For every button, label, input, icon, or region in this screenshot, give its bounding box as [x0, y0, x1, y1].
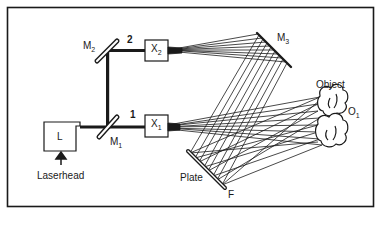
mirror-m2-label: M2: [83, 41, 95, 51]
beam-2-label: 2: [127, 35, 133, 45]
beam-vertical-line: [106, 50, 109, 127]
beam-1-label: 1: [130, 110, 136, 120]
object-o1-shape: [316, 84, 348, 146]
beam-1-line: [80, 126, 145, 129]
mirror-m3-label: M3: [277, 33, 289, 43]
laserhead-arrow-icon: [56, 152, 66, 165]
expander-x2-label: X2: [151, 44, 162, 54]
plate-label: Plate: [180, 173, 203, 183]
laserhead-caption: Laserhead: [37, 171, 84, 181]
mirror-m1-label: M1: [110, 137, 122, 147]
beam-2-line: [107, 49, 145, 52]
object-label: Object: [316, 80, 345, 90]
reference-beam-fan: [168, 34, 286, 62]
laserhead-box-label: L: [57, 132, 63, 142]
expander-x1-label: X1: [151, 119, 162, 129]
object-o1-label: O1: [348, 107, 360, 117]
plate-f-label: F: [228, 190, 234, 200]
